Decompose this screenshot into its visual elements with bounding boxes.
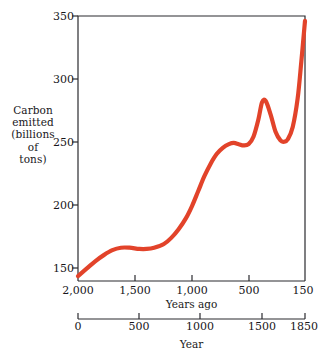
year-tick-label-1850: 1850 <box>290 320 318 333</box>
years-ago-axis-ticks <box>135 275 249 281</box>
year-tick-label-1500: 1500 <box>248 320 276 333</box>
year-tick-label-500: 500 <box>129 320 150 333</box>
year-axis-label: Year <box>78 338 305 350</box>
years-ago-tick-label-150: 150 <box>293 284 314 297</box>
plot-frame <box>78 16 305 281</box>
chart-figure: Carbon emitted (billions of tons) 350 30… <box>0 0 333 360</box>
y-axis-ticks <box>72 16 78 268</box>
years-ago-axis-label: Years ago <box>78 298 305 310</box>
years-ago-tick-label-2000: 2,000 <box>62 284 94 297</box>
years-ago-tick-label-1500: 1,500 <box>119 284 151 297</box>
years-ago-tick-label-1000: 1,000 <box>176 284 208 297</box>
years-ago-tick-label-500: 500 <box>239 284 260 297</box>
year-axis <box>78 313 305 319</box>
carbon-emission-curve <box>78 21 305 276</box>
year-tick-label-1000: 1000 <box>186 320 214 333</box>
year-tick-label-0: 0 <box>75 320 82 333</box>
